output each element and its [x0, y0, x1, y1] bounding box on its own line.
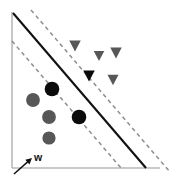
support-vector-circle-3: [72, 110, 87, 125]
data-point-circle-4: [42, 131, 55, 144]
figure-canvas: w: [0, 0, 172, 182]
weight-vector-label: w: [33, 151, 43, 163]
data-point-circle-1: [26, 93, 40, 107]
svm-margin-figure: w: [0, 0, 172, 182]
support-vector-circle-0: [45, 82, 60, 97]
data-point-circle-2: [42, 110, 56, 124]
